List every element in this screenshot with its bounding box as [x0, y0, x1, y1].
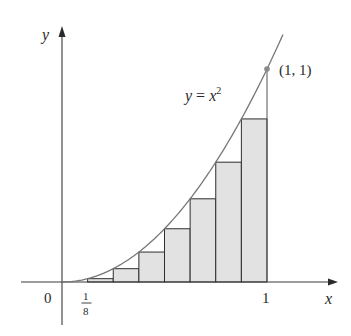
riemann-rectangle [165, 229, 191, 282]
point-1-1-marker [264, 66, 270, 72]
riemann-rectangle [241, 119, 267, 282]
function-label-exponent: 2 [216, 85, 221, 96]
y-axis [59, 26, 66, 325]
fraction-denominator: 8 [83, 305, 89, 317]
function-label-base: x [208, 87, 216, 104]
x-axis-arrow-icon [328, 279, 338, 286]
riemann-rectangle [139, 252, 165, 282]
origin-label: 0 [44, 290, 52, 306]
function-label-eq: = [192, 87, 209, 104]
function-label: y = x2 [183, 85, 221, 105]
fraction-numerator: 1 [83, 290, 89, 302]
riemann-rectangle [190, 199, 216, 282]
point-label: (1, 1) [279, 62, 312, 79]
tick-one-label: 1 [262, 290, 270, 306]
riemann-rectangle [216, 162, 242, 282]
riemann-sum-figure: (1, 1) y = x2 y x 0 1 1 8 [0, 0, 351, 336]
y-axis-label: y [40, 26, 50, 44]
y-axis-arrow-icon [59, 26, 66, 37]
riemann-rectangle [113, 269, 139, 282]
x-axis-label: x [324, 290, 332, 307]
riemann-rectangles [88, 119, 267, 282]
tick-one-eighth-label: 1 8 [82, 290, 92, 317]
